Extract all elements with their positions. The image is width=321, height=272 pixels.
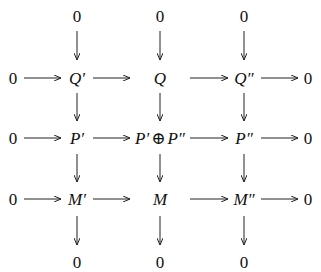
bottom-zero-2: 0 — [156, 254, 165, 271]
p-row-left-zero: 0 — [9, 130, 18, 147]
node-q: Q — [154, 70, 166, 87]
node-q-prime: Q′ — [69, 70, 85, 87]
top-zero-2: 0 — [156, 8, 165, 25]
node-m-prime: M′ — [68, 191, 86, 208]
node-m: M — [153, 191, 167, 208]
node-p-double-prime: P″ — [235, 130, 252, 147]
bottom-zero-3: 0 — [240, 254, 249, 271]
top-zero-1: 0 — [73, 8, 82, 25]
node-q-double-prime: Q″ — [234, 70, 253, 87]
node-p-direct-sum: P′⊕P″ — [135, 130, 185, 147]
m-row-left-zero: 0 — [9, 191, 18, 208]
q-row-left-zero: 0 — [9, 70, 18, 87]
node-m-double-prime: M″ — [233, 191, 254, 208]
node-p-prime: P′ — [70, 130, 84, 147]
top-zero-3: 0 — [240, 8, 249, 25]
m-row-right-zero: 0 — [304, 191, 313, 208]
p-sum-left: P′ — [135, 129, 149, 148]
p-sum-right: P″ — [167, 129, 184, 148]
p-row-right-zero: 0 — [304, 130, 313, 147]
q-row-right-zero: 0 — [304, 70, 313, 87]
bottom-zero-1: 0 — [73, 254, 82, 271]
direct-sum-symbol: ⊕ — [151, 129, 165, 148]
